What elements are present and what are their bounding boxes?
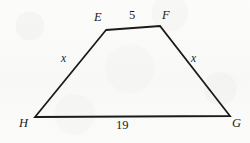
side-measure-ef: 5 [129,9,135,22]
trapezoid-outline [35,26,230,117]
vertex-label-g: G [232,117,241,130]
vertex-label-h: H [19,117,28,130]
side-measure-gh: 19 [116,119,129,132]
side-measure-he: x [61,53,66,65]
vertex-label-f: F [162,9,170,22]
side-measure-fg: x [191,53,196,65]
geometry-figure: E F H G 5 19 x x [0,0,250,143]
vertex-label-e: E [94,11,102,24]
